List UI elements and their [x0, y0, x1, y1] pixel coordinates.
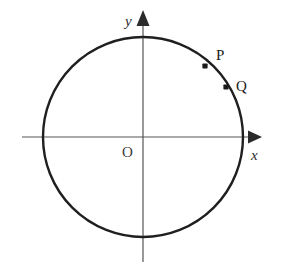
y-axis-label: y — [123, 13, 132, 29]
origin-label: O — [122, 144, 133, 160]
x-axis-label: x — [250, 147, 258, 163]
point-p-label: P — [216, 47, 224, 63]
circle-diagram: P Q O x y — [0, 0, 282, 270]
point-q-marker — [223, 84, 228, 89]
point-q-label: Q — [236, 78, 247, 94]
point-p-marker — [202, 63, 207, 68]
figure-container: P Q O x y — [0, 0, 282, 270]
